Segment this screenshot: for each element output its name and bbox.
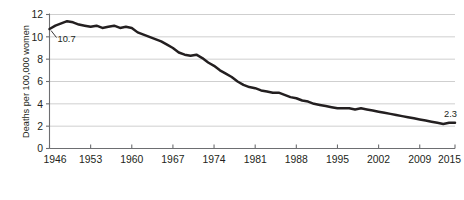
x-tick-label-1953: 1953 (79, 154, 102, 165)
data-point-annotations: 10.72.3 (51, 31, 457, 120)
x-tick-label-1974: 1974 (202, 154, 225, 165)
mortality-rate-line-chart: 024681012 194619531960196719741981198819… (0, 0, 464, 200)
y-tick-label-10: 10 (31, 32, 43, 43)
gridlines (50, 15, 456, 127)
y-axis-title: Deaths per 100,000 women (21, 25, 31, 138)
x-tick-label-1967: 1967 (161, 154, 184, 165)
y-tick-label-6: 6 (37, 76, 43, 87)
annotation-label-end: 2.3 (444, 109, 457, 119)
y-tick-label-2: 2 (37, 121, 43, 132)
axes (50, 14, 456, 149)
x-tick-label-2009: 2009 (408, 154, 431, 165)
annotation-label-start: 10.7 (58, 34, 76, 44)
y-tick-label-8: 8 (37, 54, 43, 65)
x-tick-label-2015: 2015 (438, 154, 461, 165)
chart-canvas: 024681012 194619531960196719741981198819… (0, 0, 464, 200)
x-axis-tick-labels: 1946195319601967197419811988199520022009… (44, 154, 462, 165)
x-tick-label-1981: 1981 (244, 154, 267, 165)
x-tick-label-1960: 1960 (120, 154, 143, 165)
y-axis-tick-labels: 024681012 (31, 9, 43, 154)
x-tick-label-1995: 1995 (326, 154, 349, 165)
y-tick-label-4: 4 (37, 99, 43, 110)
x-tick-label-1946: 1946 (44, 154, 67, 165)
y-tick-label-12: 12 (31, 9, 43, 20)
x-tick-label-2002: 2002 (367, 154, 390, 165)
y-tick-label-0: 0 (37, 143, 43, 154)
y-axis-title-text: Deaths per 100,000 women (21, 25, 31, 138)
x-tick-label-1988: 1988 (285, 154, 308, 165)
